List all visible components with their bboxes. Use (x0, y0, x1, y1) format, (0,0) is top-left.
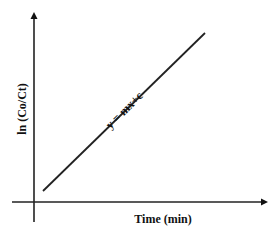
y-axis (31, 12, 38, 222)
y-axis-arrow-icon (31, 12, 38, 19)
x-axis-arrow-icon (261, 199, 268, 206)
chart: y = mx+c ln (Co/Ct) Time (min) (0, 0, 279, 236)
x-axis-label: Time (min) (134, 212, 191, 226)
x-axis (12, 199, 268, 206)
equation-label: y = mx+c (103, 88, 147, 132)
y-axis-label: ln (Co/Ct) (15, 83, 29, 135)
